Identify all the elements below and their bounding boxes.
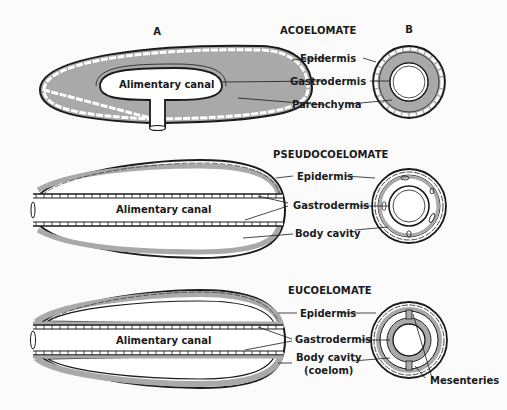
eucoelomate-title: EUCOELOMATE [288, 285, 372, 296]
pseudocoelomate-body-cavity-label: Body cavity [295, 228, 361, 239]
acoelomate-canal-label: Alimentary canal [119, 79, 214, 90]
eucoelomate-mesenteries-label: Mesenteries [430, 375, 499, 386]
column-header-a: A [150, 26, 164, 37]
pseudocoelomate-epidermis-label: Epidermis [297, 171, 353, 182]
column-header-b: B [403, 24, 415, 35]
eucoelomate-canal-label: Alimentary canal [116, 335, 211, 346]
acoelomate-cross-section [373, 46, 445, 118]
pseudocoelomate-canal-label: Alimentary canal [116, 204, 211, 215]
pseudocoelomate-title: PSEUDOCOELOMATE [273, 149, 389, 160]
acoelomate-parenchyma-label: Parenchyma [292, 99, 361, 110]
acoelomate-title: ACOELOMATE [280, 25, 357, 36]
diagram-drawings [0, 0, 507, 410]
eucoelomate-gastrodermis-label: Gastrodermis [295, 334, 371, 345]
pseudocoelomate-gastrodermis-label: Gastrodermis [293, 200, 369, 211]
eucoelomate-body-cavity-label: Body cavity [296, 352, 362, 363]
acoelomate-epidermis-label: Epidermis [300, 53, 356, 64]
body-plan-diagram: A B ACOELOMATE Alimentary canal Epidermi… [0, 0, 507, 410]
eucoelomate-coelom-label: (coelom) [304, 365, 353, 376]
acoelomate-gastrodermis-label: Gastrodermis [290, 76, 366, 87]
eucoelomate-epidermis-label: Epidermis [300, 308, 356, 319]
